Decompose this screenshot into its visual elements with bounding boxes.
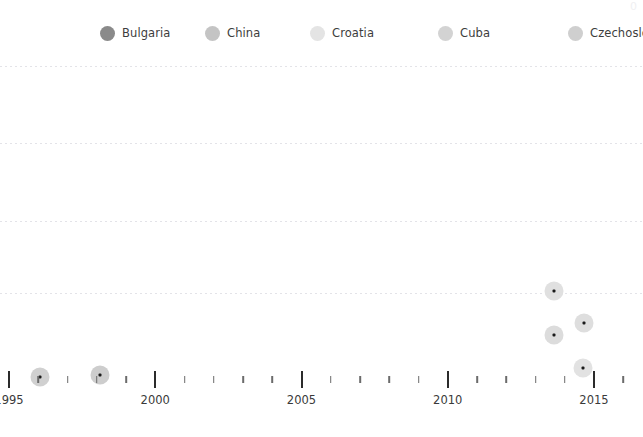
axis-tick-minor [96,376,98,383]
legend-swatch-icon [205,26,220,41]
legend-item-china[interactable]: China [205,26,310,41]
axis-tick-label: 2005 [287,393,316,407]
axis-tick-minor [388,376,390,383]
legend-item-croatia[interactable]: Croatia [310,26,438,41]
axis-tick-label: 2000 [141,393,170,407]
axis-tick-minor [67,376,69,383]
axis-tick-major [8,371,10,388]
axis-tick-major [447,371,449,388]
axis-tick-minor [330,376,332,383]
legend-swatch-icon [438,26,453,41]
axis-tick-minor [125,376,127,383]
legend-item-label: Cuba [460,26,490,40]
axis-tick-minor [505,376,507,383]
axis-tick-minor [359,376,361,383]
axis-tick-minor [271,376,273,383]
legend-item-cuba[interactable]: Cuba [438,26,568,41]
data-point[interactable] [545,326,564,345]
chart-legend: BulgariaChinaCroatiaCubaCzechoslovakiaEa… [0,18,643,48]
axis-tick-minor [622,376,624,383]
data-point[interactable] [575,314,594,333]
data-point[interactable] [545,282,564,301]
axis-tick-label: 1995 [0,393,24,407]
legend-item-label: China [227,26,260,40]
legend-swatch-icon [568,26,583,41]
axis-tick-minor [476,376,478,383]
axis-tick-minor [37,376,39,383]
axis-tick-major [154,371,156,388]
axis-tick-minor [564,376,566,383]
x-axis: 19952000200520102015 [0,371,643,411]
legend-item-label: Czechoslovakia [590,26,643,40]
legend-swatch-icon [100,26,115,41]
axis-tick-minor [213,376,215,383]
legend-swatch-icon [310,26,325,41]
gridline-0 [0,66,643,67]
axis-tick-minor [535,376,537,383]
gridline-1 [0,143,643,144]
axis-tick-label: 2010 [433,393,462,407]
axis-tick-minor [242,376,244,383]
legend-item-label: Croatia [332,26,374,40]
axis-tick-minor [184,376,186,383]
legend-item-label: Bulgaria [122,26,171,40]
axis-tick-major [301,371,303,388]
corner-artifact-label: 0 [630,0,637,13]
axis-tick-major [593,371,595,388]
legend-item-bulgaria[interactable]: Bulgaria [100,26,205,41]
scatter-chart: BulgariaChinaCroatiaCubaCzechoslovakiaEa… [0,0,643,437]
axis-tick-minor [418,376,420,383]
legend-item-czechoslovakia[interactable]: Czechoslovakia [568,26,643,41]
axis-tick-label: 2015 [579,393,608,407]
gridline-2 [0,221,643,222]
